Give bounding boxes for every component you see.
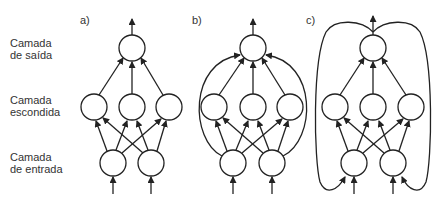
panel-a-output-node bbox=[119, 35, 145, 61]
panel-c-input-node-2 bbox=[380, 150, 406, 176]
panel-a-hidden-node-3 bbox=[156, 94, 182, 120]
panel-b-hidden-node-3 bbox=[277, 94, 303, 120]
panel-b-network bbox=[199, 19, 306, 194]
panel-b-hidden-node-2 bbox=[240, 94, 266, 120]
panel-a-input-node-1 bbox=[100, 150, 126, 176]
panel-a-input-node-2 bbox=[138, 150, 164, 176]
panel-a-network bbox=[81, 19, 182, 194]
panel-c-network bbox=[315, 16, 430, 194]
panel-b-hidden-node-1 bbox=[201, 94, 227, 120]
panel-c-output-node bbox=[360, 35, 386, 61]
panel-c-hidden-node-3 bbox=[398, 94, 424, 120]
panel-c-hidden-node-2 bbox=[360, 94, 386, 120]
panel-a-hidden-node-1 bbox=[81, 94, 107, 120]
panel-b-input-node-2 bbox=[259, 150, 285, 176]
network-diagrams bbox=[0, 0, 439, 201]
panel-b-input-node-1 bbox=[220, 150, 246, 176]
panel-c-input-node-1 bbox=[341, 150, 367, 176]
panel-c-hidden-node-1 bbox=[322, 94, 348, 120]
panel-b-output-node bbox=[240, 35, 266, 61]
panel-a-hidden-node-2 bbox=[119, 94, 145, 120]
